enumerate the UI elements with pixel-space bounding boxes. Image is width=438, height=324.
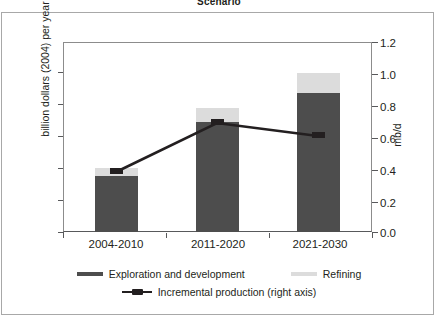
legend-item-exploration[interactable]: Exploration and development [77,268,245,280]
line-path [116,123,318,172]
legend-label-refining: Refining [323,268,362,280]
x-tick-label: 2011-2020 [163,238,273,250]
x-tick-label: 2021-2030 [265,238,375,250]
chart-legend: Exploration and development Refining Inc… [0,268,438,298]
legend-label-exploration: Exploration and development [109,268,245,280]
legend-label-incremental: Incremental production (right axis) [158,286,317,298]
line-marker [312,132,325,138]
legend-swatch-dark-icon [77,272,103,276]
x-tick-label: 2004-2010 [61,238,171,250]
legend-line-marker-icon [122,288,152,296]
legend-item-incremental[interactable]: Incremental production (right axis) [122,286,317,298]
chart-page: Scenario 2.0 1.6 1.2 0.8 0.4 0 1.2 1.0 0… [0,0,438,324]
line-marker [110,168,123,174]
legend-swatch-light-icon [291,272,317,276]
legend-item-refining[interactable]: Refining [291,268,362,280]
line-marker [211,119,224,125]
